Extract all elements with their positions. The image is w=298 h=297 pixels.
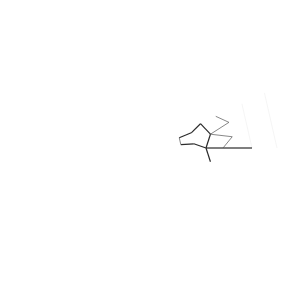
edge: [179, 133, 191, 138]
edge: [206, 134, 210, 148]
edge: [210, 122, 228, 134]
edge: [242, 104, 252, 148]
edge: [200, 124, 210, 135]
edge: [181, 144, 194, 145]
edge: [194, 144, 206, 148]
faint-edges-layer: [242, 93, 277, 148]
edge: [216, 116, 229, 122]
edge: [210, 134, 232, 137]
edge: [191, 124, 200, 133]
edge: [179, 138, 181, 145]
edge: [223, 137, 232, 148]
radial-network-diagram: Radial symmetric network graph: [0, 0, 298, 297]
edge: [206, 148, 210, 162]
edge: [264, 93, 277, 148]
edges-layer: [179, 116, 252, 161]
